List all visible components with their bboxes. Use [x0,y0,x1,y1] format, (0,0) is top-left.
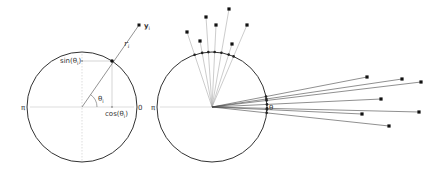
observation-point [419,80,422,83]
theta-label-right: θ [269,104,273,112]
observation-point [365,75,368,78]
projected-point [213,51,216,54]
projected-point [110,59,114,63]
cos-label: cos(θi) [105,110,128,119]
observation-point [214,23,217,26]
projected-point [265,99,268,102]
ray-line [212,25,247,107]
projected-point [266,108,269,111]
zero-label: 0 [138,104,142,112]
sin-tick [81,60,83,62]
projected-point [265,95,268,98]
right-cluster [212,75,423,127]
ray-line [212,82,421,107]
ray-line [212,107,362,114]
projected-point [207,51,210,54]
pi-label-right: π [151,104,156,112]
ray-line [212,107,419,112]
observation-point [400,77,403,80]
projected-point [220,52,223,55]
observation-point [230,42,233,45]
ray-line [206,17,212,107]
circular-projection-diagram: yi ri sin(θi) cos(θi) θi π 0 π θ [0,0,442,175]
projected-point [201,52,204,55]
observation-point [387,124,390,127]
sin-label: sin(θi) [60,57,81,66]
cos-tick [111,106,113,108]
projected-point [232,55,235,58]
ray-line [212,107,389,126]
ray-line [200,41,212,107]
observation-point [227,7,230,10]
projected-point [193,54,196,57]
observation-point [198,39,201,42]
projected-point [227,53,230,56]
observation-point [204,15,207,18]
ray-line [212,77,367,107]
observation-point [245,23,248,26]
observation-point [138,24,141,27]
projected-point [266,103,269,106]
right-panel: π θ [151,7,423,162]
ray-line [187,32,212,107]
projected-point [265,112,268,115]
r-label: ri [124,39,130,49]
theta-label: θi [98,95,104,104]
observation-point [379,97,382,100]
theta-arc [91,95,97,107]
left-panel: yi ri sin(θi) cos(θi) θi π 0 [21,22,150,162]
observation-point [185,30,188,33]
radius-line [82,25,139,107]
pi-label-left: π [21,104,26,112]
observation-point [417,110,420,113]
y-label: yi [144,22,150,31]
observation-point [360,112,363,115]
top-cluster [185,7,248,107]
